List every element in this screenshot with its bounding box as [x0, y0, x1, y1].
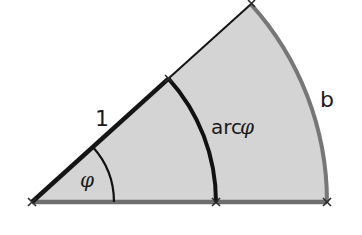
angle-label: φ [80, 168, 94, 192]
outer-arc-label: b [320, 87, 334, 112]
sector-fill [32, 4, 327, 202]
unit-radius-label: 1 [95, 106, 109, 131]
arc-label-symbol: φ [240, 115, 254, 139]
arc-label-prefix: arc [211, 115, 242, 139]
sector-diagram: 1 φ arc φ b [0, 0, 362, 235]
